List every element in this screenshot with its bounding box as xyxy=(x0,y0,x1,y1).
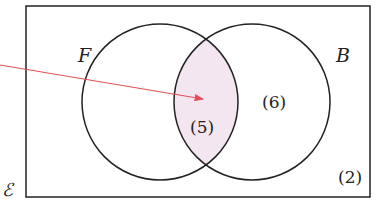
universal-set-label: ℰ xyxy=(2,179,15,200)
outside-count: (2) xyxy=(338,167,362,187)
intersection-count: (5) xyxy=(190,117,214,137)
b-only-count: (6) xyxy=(262,92,286,112)
set-f-label: F xyxy=(77,44,92,66)
set-b-label: B xyxy=(335,44,350,66)
venn-diagram: F B (5) (6) (2) ℰ xyxy=(0,0,379,200)
